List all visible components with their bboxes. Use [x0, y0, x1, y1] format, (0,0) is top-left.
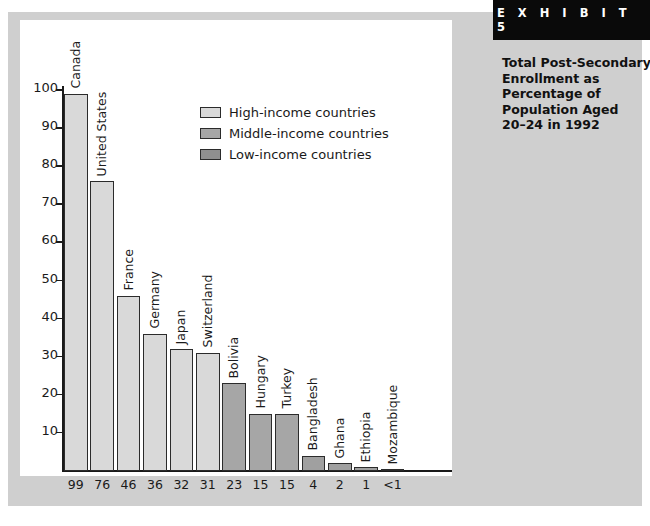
bar[interactable]	[222, 383, 246, 471]
y-axis-tick-mark	[56, 89, 63, 91]
bar-value-label: 1	[352, 477, 380, 492]
bar-slot: United States	[90, 61, 114, 471]
legend-label: Middle-income countries	[229, 126, 389, 141]
y-axis-tick-mark	[56, 241, 63, 243]
legend-label: Low-income countries	[229, 147, 371, 162]
y-axis-tick-mark	[56, 394, 63, 396]
bar[interactable]	[90, 181, 114, 471]
exhibit-title: Total Post-SecondaryEnrollment asPercent…	[502, 55, 642, 133]
bar-category-label: Turkey	[281, 368, 294, 414]
bar-slot: France	[117, 61, 141, 471]
exhibit-header-box: E X H I B I T 5	[493, 0, 650, 40]
bar-value-label: 76	[88, 477, 116, 492]
exhibit-title-line: Enrollment as	[502, 71, 642, 87]
y-axis-tick-label: 60	[18, 232, 58, 247]
bar[interactable]	[302, 456, 326, 471]
value-row: 997646363231231515421<1	[64, 477, 409, 497]
legend-item[interactable]: Middle-income countries	[200, 125, 389, 142]
legend-swatch	[200, 128, 221, 139]
bar-slot: Canada	[64, 61, 88, 471]
bar-value-label: 36	[141, 477, 169, 492]
y-axis-tick-label: 70	[18, 194, 58, 209]
bar[interactable]	[196, 353, 220, 471]
bar[interactable]	[275, 414, 299, 471]
y-axis-tick-mark	[56, 318, 63, 320]
bar-category-label: Japan	[175, 309, 188, 349]
exhibit-title-line: Percentage of	[502, 86, 642, 102]
bar[interactable]	[354, 467, 378, 471]
y-axis-tick-label: 40	[18, 309, 58, 324]
bar[interactable]	[143, 334, 167, 471]
legend-swatch	[200, 149, 221, 160]
y-axis-tick-mark	[56, 165, 63, 167]
exhibit-number-label: E X H I B I T 5	[493, 6, 650, 34]
legend-item[interactable]: Low-income countries	[200, 146, 389, 163]
bar-category-label: United States	[96, 92, 109, 182]
bar[interactable]	[328, 463, 352, 471]
exhibit-title-line: Population Aged	[502, 102, 642, 118]
bar-category-label: Bangladesh	[307, 377, 320, 455]
y-axis-tick-mark	[56, 127, 63, 129]
bar-category-label: Mozambique	[386, 384, 399, 469]
y-axis-tick-label: 20	[18, 385, 58, 400]
bar-slot: Germany	[143, 61, 167, 471]
bar-value-label: 2	[326, 477, 354, 492]
bar-value-label: 23	[220, 477, 248, 492]
y-axis-tick-label: 100	[18, 80, 58, 95]
bar-value-label: <1	[379, 477, 407, 492]
y-axis-tick-label: 90	[18, 118, 58, 133]
bar[interactable]	[170, 349, 194, 471]
bar-value-label: 15	[247, 477, 275, 492]
bar-category-label: Bolivia	[228, 337, 241, 384]
bar-category-label: France	[122, 249, 135, 296]
y-axis-tick-mark	[56, 203, 63, 205]
exhibit-title-line: Total Post-Secondary	[502, 55, 642, 71]
bar-value-label: 15	[273, 477, 301, 492]
y-axis-tick-label: 80	[18, 156, 58, 171]
bar-value-label: 99	[62, 477, 90, 492]
bar-category-label: Germany	[149, 271, 162, 333]
legend-label: High-income countries	[229, 105, 376, 120]
bar[interactable]	[117, 296, 141, 471]
exhibit-title-line: 20–24 in 1992	[502, 117, 642, 133]
y-axis-tick-label: 10	[18, 423, 58, 438]
bar-category-label: Canada	[70, 41, 83, 94]
bar-value-label: 31	[194, 477, 222, 492]
y-axis-tick-label: 50	[18, 271, 58, 286]
y-axis-tick-mark	[56, 280, 63, 282]
bar-category-label: Ghana	[334, 418, 347, 464]
bar[interactable]	[64, 94, 88, 471]
bar-category-label: Ethiopia	[360, 411, 373, 467]
chart-legend: High-income countriesMiddle-income count…	[200, 104, 389, 167]
y-axis-tick-mark	[56, 356, 63, 358]
legend-item[interactable]: High-income countries	[200, 104, 389, 121]
bar-category-label: Switzerland	[202, 275, 215, 353]
y-axis-tick-mark	[56, 432, 63, 434]
bar-slot: Japan	[170, 61, 194, 471]
legend-swatch	[200, 107, 221, 118]
exhibit-page: 102030405060708090100 CanadaUnited State…	[0, 0, 650, 526]
bar-value-label: 4	[300, 477, 328, 492]
bar-category-label: Hungary	[254, 355, 267, 413]
bar[interactable]	[249, 414, 273, 471]
bar-value-label: 46	[115, 477, 143, 492]
bar-value-label: 32	[168, 477, 196, 492]
y-axis-tick-label: 30	[18, 347, 58, 362]
